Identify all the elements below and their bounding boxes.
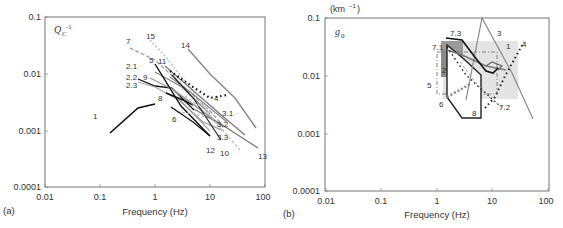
svg-text:3.3: 3.3 (217, 133, 229, 142)
x-tick: 0.1 (375, 196, 388, 206)
y-axis-b (325, 18, 328, 191)
svg-text:0: 0 (341, 32, 345, 40)
svg-text:): ) (357, 4, 360, 14)
svg-text:−1: −1 (349, 3, 357, 9)
y-tick: 0.01 (302, 71, 320, 81)
x-axis-b (326, 188, 548, 191)
svg-text:Q: Q (54, 24, 62, 35)
x-tick: 1 (434, 196, 439, 206)
svg-text:4: 4 (214, 94, 219, 103)
svg-text:4: 4 (522, 40, 527, 49)
svg-text:8: 8 (158, 94, 163, 103)
svg-text:g: g (335, 26, 340, 37)
chart-title-a: Q C -1 (54, 23, 72, 38)
x-tick: 100 (255, 192, 270, 202)
y-tick: 0.0001 (13, 182, 41, 192)
series-1 (110, 104, 155, 133)
x-tick: 10 (205, 192, 215, 202)
svg-text:-1: -1 (66, 23, 72, 31)
y-tick: 0.001 (297, 129, 320, 139)
svg-text:2: 2 (442, 66, 447, 75)
svg-text:14: 14 (181, 41, 190, 50)
y-tick: 0.01 (23, 69, 41, 79)
svg-text:13: 13 (258, 152, 267, 161)
plot-frame-a (45, 17, 265, 187)
svg-text:6: 6 (172, 115, 177, 124)
svg-text:11: 11 (158, 57, 167, 66)
figure: 0.1 0.01 0.001 0.0001 0.01 0.1 1 10 100 … (0, 0, 563, 228)
x-tick: 0.01 (317, 196, 335, 206)
svg-text:C: C (62, 30, 67, 38)
panel-a: 0.1 0.01 0.001 0.0001 0.01 0.1 1 10 100 … (3, 12, 271, 217)
svg-text:7.2: 7.2 (499, 103, 511, 112)
x-axis-a (45, 184, 265, 187)
panel-label-a: (a) (3, 205, 15, 216)
svg-text:15: 15 (146, 32, 155, 41)
panel-b: 0.1 0.01 0.001 0.0001 0.01 0.1 1 10 100 … (283, 3, 554, 220)
svg-text:7.1: 7.1 (432, 43, 444, 52)
chart-title-b: g 0 (335, 26, 345, 40)
x-tick: 100 (538, 196, 553, 206)
unit-label-b: (km −1 ) (330, 3, 360, 14)
x-tick: 0.1 (94, 192, 107, 202)
svg-text:7: 7 (126, 37, 131, 46)
svg-text:8: 8 (472, 109, 477, 118)
svg-text:12: 12 (206, 146, 215, 155)
svg-text:5: 5 (149, 56, 154, 65)
x-tick: 10 (487, 196, 497, 206)
x-axis-label-b: Frequency (Hz) (404, 209, 469, 220)
x-tick: 0.01 (36, 192, 54, 202)
x-tick: 1 (152, 192, 157, 202)
svg-text:5: 5 (427, 81, 432, 90)
svg-text:9: 9 (143, 73, 148, 82)
svg-text:10: 10 (220, 149, 229, 158)
y-tick: 0.001 (18, 126, 41, 136)
y-axis-a (45, 17, 48, 187)
svg-text:2.1: 2.1 (126, 62, 138, 71)
series-lines-a (110, 40, 258, 150)
svg-text:7.3: 7.3 (450, 29, 462, 38)
svg-text:2.3: 2.3 (126, 81, 138, 90)
y-tick: 0.1 (28, 12, 41, 22)
svg-text:1: 1 (506, 42, 511, 51)
x-axis-label-a: Frequency (Hz) (122, 206, 187, 217)
y-tick: 0.0001 (292, 186, 320, 196)
svg-text:(km: (km (330, 4, 345, 14)
y-tick: 0.1 (307, 13, 320, 23)
svg-text:3.1: 3.1 (222, 109, 234, 118)
svg-text:1: 1 (93, 112, 98, 121)
svg-text:3.2: 3.2 (217, 120, 229, 129)
svg-text:3: 3 (497, 29, 502, 38)
svg-text:6: 6 (439, 100, 444, 109)
panel-label-b: (b) (283, 208, 295, 219)
